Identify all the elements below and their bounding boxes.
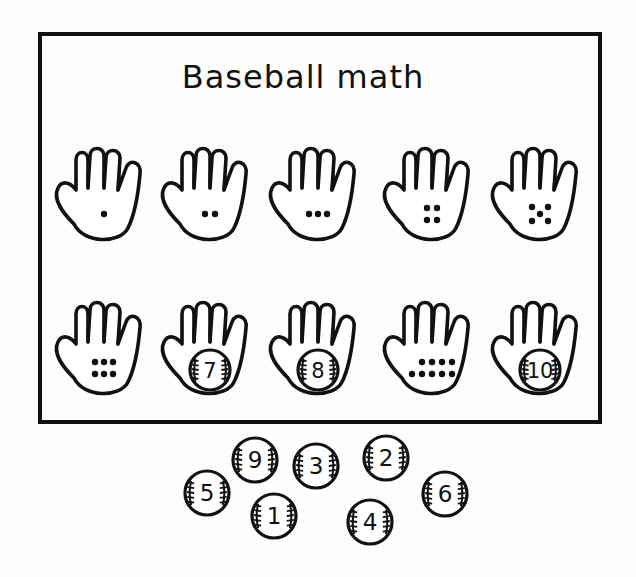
- glove-ball-10[interactable]: 10: [520, 350, 560, 390]
- svg-text:3: 3: [309, 453, 324, 479]
- loose-ball-1[interactable]: 1: [252, 494, 296, 538]
- loose-ball-5[interactable]: 5: [185, 471, 229, 515]
- glove-ball-7[interactable]: 7: [190, 350, 230, 390]
- svg-text:8: 8: [311, 359, 324, 383]
- glove-ball-8[interactable]: 8: [298, 350, 338, 390]
- glove-10: 10: [492, 303, 576, 394]
- svg-text:10: 10: [527, 359, 554, 383]
- loose-ball-3[interactable]: 3: [294, 444, 338, 488]
- loose-ball-6[interactable]: 6: [423, 472, 467, 516]
- svg-text:1: 1: [267, 503, 282, 529]
- loose-ball-2[interactable]: 2: [364, 436, 408, 480]
- svg-text:6: 6: [438, 481, 453, 507]
- loose-ball-4[interactable]: 4: [348, 500, 392, 544]
- svg-text:5: 5: [200, 480, 215, 506]
- glove-7: 7: [162, 303, 246, 394]
- svg-text:2: 2: [379, 445, 394, 471]
- worksheet: Baseball math 78109325146: [0, 0, 636, 577]
- glove-artwork: 78109325146: [0, 0, 636, 577]
- glove-2: [162, 149, 246, 240]
- glove-6: [56, 303, 140, 394]
- svg-text:4: 4: [363, 509, 378, 535]
- dot-group-3: [306, 211, 330, 217]
- svg-text:7: 7: [203, 359, 216, 383]
- glove-1: [56, 149, 140, 240]
- glove-8: 8: [270, 303, 354, 394]
- dot-group-1: [101, 211, 107, 217]
- glove-3: [270, 149, 354, 240]
- loose-ball-9[interactable]: 9: [233, 438, 277, 482]
- glove-4: [384, 149, 468, 240]
- glove-9: [384, 303, 468, 394]
- svg-text:9: 9: [248, 447, 263, 473]
- glove-5: [492, 149, 576, 240]
